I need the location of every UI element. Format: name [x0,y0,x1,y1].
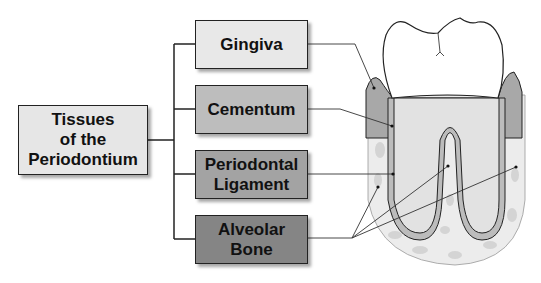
branch-box-alveolar-bone: AlveolarBone [195,215,308,264]
gingiva-label: Gingiva [220,35,282,55]
root-box-tissues-of-periodontium: Tissuesof thePeriodontium [18,105,148,175]
branch-box-periodontal-ligament: PeriodontalLigament [195,150,308,199]
branch-box-cementum: Cementum [195,85,308,134]
root-label-line2: of the [60,130,106,149]
periodontal-label-line2: Ligament [214,175,290,194]
alveolar-label-line2: Bone [230,240,273,259]
root-label-line1: Tissues [51,110,114,129]
branch-box-gingiva: Gingiva [195,20,308,69]
root-label-line3: Periodontium [28,150,138,169]
alveolar-label-line1: Alveolar [218,220,285,239]
cementum-label: Cementum [208,100,296,120]
periodontal-label-line1: Periodontal [205,155,299,174]
